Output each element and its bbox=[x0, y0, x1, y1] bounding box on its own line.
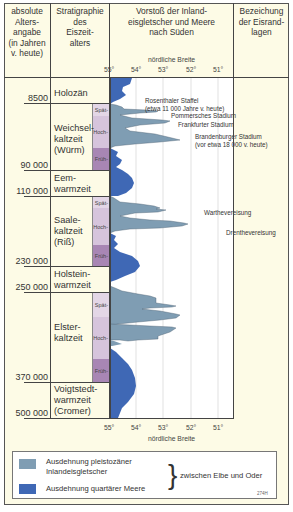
subphase-label: Spät- bbox=[95, 200, 108, 206]
subphase-saale-spaet: Spät- bbox=[92, 197, 109, 208]
stage-line: Eem- bbox=[54, 173, 91, 184]
stage-voigtstedt: Voigtstedt- warmzeit (Cromer) bbox=[54, 384, 97, 417]
stage-line: (Cromer) bbox=[54, 406, 97, 417]
subphase-weichsel-hoch: Hoch- bbox=[92, 116, 109, 148]
legend-code: 274H bbox=[257, 491, 268, 496]
header-age-line: v. heute) bbox=[4, 48, 50, 59]
header-age-line: absolute bbox=[4, 6, 50, 17]
stage-line: warmzeit bbox=[54, 395, 97, 406]
age-line-250000 bbox=[24, 292, 110, 293]
header-age: absolute Alters- angabe (in Jahren v. he… bbox=[4, 6, 50, 59]
age-line-500000 bbox=[24, 418, 234, 419]
age-110000: 110 000 bbox=[4, 186, 48, 196]
divider-strat bbox=[109, 3, 110, 418]
subphase-saale-frueh: Früh- bbox=[92, 245, 109, 266]
label-line: (vor etwa 18 000 v. heute) bbox=[195, 141, 268, 149]
header-chart: Vorstoß der Inland- eisgletscher und Mee… bbox=[110, 6, 233, 38]
legend-brace-icon: } bbox=[168, 459, 177, 491]
header-chart-line: nach Süden bbox=[110, 27, 233, 38]
axis-tick-top: 52° bbox=[186, 66, 196, 73]
legend: Ausdehnung pleistozäner Inlandeisgletsch… bbox=[12, 451, 277, 499]
header-strat-line: Eiszeit- bbox=[51, 27, 109, 38]
subphase-label: Spät- bbox=[95, 302, 108, 308]
subphase-elster-spaet: Spät- bbox=[92, 293, 109, 317]
legend-line: Inlandeisgletscher bbox=[46, 467, 132, 477]
stage-line: (Würm) bbox=[54, 145, 94, 156]
header-age-line: angabe bbox=[4, 27, 50, 38]
age-500000: 500 000 bbox=[4, 408, 48, 418]
stage-line: Elster- bbox=[54, 322, 83, 333]
subphase-label: Spät- bbox=[95, 107, 108, 113]
axis-tick-top: 53° bbox=[158, 66, 168, 73]
axis-tick-bottom: 51° bbox=[213, 424, 223, 431]
subphase-saale-hoch: Hoch- bbox=[92, 208, 109, 245]
subphase-label: Früh- bbox=[95, 368, 108, 374]
axis-tick-bottom: 53° bbox=[158, 424, 168, 431]
header-names: Bezeichung der Eisrand- lagen bbox=[234, 6, 289, 38]
subphase-label: Hoch- bbox=[93, 224, 108, 230]
axis-tick-top: 54° bbox=[131, 66, 141, 73]
legend-line: Ausdehnung pleistozäner bbox=[46, 457, 132, 467]
header-name-line: der Eisrand- bbox=[234, 17, 289, 28]
axis-title-top: nördliche Breite bbox=[110, 56, 233, 63]
legend-swatch-sea bbox=[19, 484, 36, 494]
header-strat-line: des bbox=[51, 17, 109, 28]
axis-tick-top: 51° bbox=[213, 66, 223, 73]
age-370000: 370 000 bbox=[4, 372, 48, 382]
sub-divider bbox=[92, 197, 93, 266]
header-strat-line: Stratigraphie bbox=[51, 6, 109, 17]
stage-line: Holstein- bbox=[54, 269, 91, 280]
subphase-elster-frueh: Früh- bbox=[92, 359, 109, 382]
glaciation-chart bbox=[110, 78, 233, 418]
stage-line: Saale- bbox=[54, 215, 83, 226]
legend-sea-label: Ausdehnung quartärer Meere bbox=[46, 484, 145, 494]
stage-holozaen: Holozän bbox=[54, 88, 88, 99]
header-chart-line: Vorstoß der Inland- bbox=[110, 6, 233, 17]
header-divider bbox=[4, 77, 289, 78]
stage-line: kaltzeit bbox=[54, 333, 83, 344]
axis-title-bottom: nördliche Breite bbox=[110, 435, 233, 442]
subphase-label: Früh- bbox=[95, 156, 108, 162]
header-strat-line: alters bbox=[51, 38, 109, 49]
stage-line: kaltzeit bbox=[54, 226, 83, 237]
subphase-label: Hoch- bbox=[93, 129, 108, 135]
label-pommern: Pommersches Stadium bbox=[171, 112, 236, 120]
header-strat: Stratigraphie des Eiszeit- alters bbox=[51, 6, 109, 48]
stage-eem: Eem- warmzeit bbox=[54, 173, 91, 195]
header-age-line: Alters- bbox=[4, 17, 50, 28]
stage-line: kaltzeit bbox=[54, 134, 94, 145]
age-line-90000 bbox=[24, 170, 110, 171]
stage-holstein: Holstein- warmzeit bbox=[54, 269, 91, 291]
subphase-label: Früh- bbox=[95, 253, 108, 259]
axis-tick-bottom: 54° bbox=[131, 424, 141, 431]
subphase-weichsel-spaet: Spät- bbox=[92, 104, 109, 116]
legend-region: zwischen Elbe und Oder bbox=[180, 471, 262, 481]
subphase-elster-hoch: Hoch- bbox=[92, 317, 109, 359]
axis-tick-bottom: 55° bbox=[104, 424, 114, 431]
label-frankfurt: Frankfurter Stadium bbox=[178, 121, 234, 129]
header-name-line: Bezeichung bbox=[234, 6, 289, 17]
divider-age bbox=[50, 3, 51, 418]
divider-chart bbox=[233, 3, 234, 418]
label-line: Brandenburger Stadium bbox=[195, 133, 268, 141]
sub-divider bbox=[92, 293, 93, 382]
stage-weichsel: Weichsel- kaltzeit (Würm) bbox=[54, 123, 94, 156]
age-250000: 250 000 bbox=[4, 282, 48, 292]
label-rosenthal: Rosenthaler Staffel (etwa 11 000 Jahre v… bbox=[145, 97, 224, 113]
label-brandenburg: Brandenburger Stadium (vor etwa 18 000 v… bbox=[195, 133, 268, 149]
age-line-370000 bbox=[24, 382, 110, 383]
stage-elster: Elster- kaltzeit bbox=[54, 322, 83, 344]
stage-line: warmzeit bbox=[54, 184, 91, 195]
label-line: Rosenthaler Staffel bbox=[145, 97, 224, 105]
age-8500: 8500 bbox=[4, 93, 48, 103]
legend-swatch-ice bbox=[19, 459, 36, 469]
stage-line: (Riß) bbox=[54, 237, 83, 248]
label-warthe: Warthevereisung bbox=[204, 209, 251, 217]
age-line-230000 bbox=[24, 266, 110, 267]
axis-tick-bottom: 52° bbox=[186, 424, 196, 431]
stage-saale: Saale- kaltzeit (Riß) bbox=[54, 215, 83, 248]
header-age-line: (in Jahren bbox=[4, 38, 50, 49]
age-230000: 230 000 bbox=[4, 256, 48, 266]
age-line-8500 bbox=[24, 103, 110, 104]
stage-line: Weichsel- bbox=[54, 123, 94, 134]
